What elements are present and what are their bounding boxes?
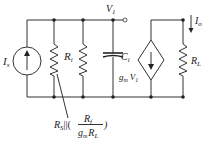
leader-line: [57, 74, 68, 118]
resistor-rs: [50, 44, 58, 76]
resistor-rl: [179, 44, 187, 76]
svg-text:RS||(: RS||(: [53, 119, 72, 132]
capacitor-ci: [103, 53, 123, 57]
label-v1: V1: [106, 3, 116, 16]
circuit-diagram: Is Ri V1 Ci gmV1 RL Io RS||( Rf gmRL ): [0, 0, 212, 150]
label-is: Is: [2, 55, 10, 69]
current-source-is: [13, 47, 41, 75]
svg-text:): ): [103, 119, 108, 131]
label-ri: Ri: [63, 50, 73, 64]
output-current-arrow-icon: [189, 15, 194, 33]
label-io: Io: [194, 15, 202, 28]
label-ci: Ci: [121, 51, 130, 64]
label-gmv1: gmV1: [119, 72, 138, 83]
v1-terminal: [123, 18, 127, 22]
equivalent-resistance-label: RS||( Rf gmRL ): [53, 113, 108, 140]
dependent-current-source: [138, 40, 164, 80]
svg-text:gmRL: gmRL: [78, 127, 98, 140]
label-rl: RL: [190, 55, 201, 68]
resistor-ri: [79, 44, 87, 76]
